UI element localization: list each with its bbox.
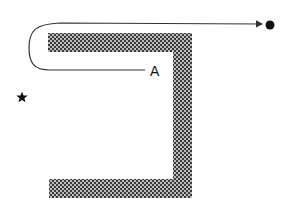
diagram-canvas: A: [0, 0, 285, 217]
star-icon: [16, 92, 27, 103]
wall-top-bar: [48, 33, 192, 52]
label-a: A: [150, 63, 160, 79]
goal-dot: [266, 21, 275, 30]
wall-right-bar: [173, 33, 192, 198]
wall-bottom-bar: [49, 179, 192, 198]
wall: [48, 33, 192, 198]
